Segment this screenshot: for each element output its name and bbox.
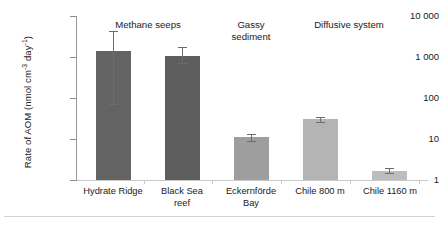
y-axis-title-mid: day: [22, 45, 33, 63]
group-annotation-line1: Gassy: [222, 19, 280, 31]
bar-black-sea-reef: [165, 56, 200, 180]
error-bar-cap-lower: [247, 141, 256, 142]
error-bar-black-sea-reef: [182, 47, 183, 64]
bar-eckernf-rde-bay: [234, 137, 269, 180]
group-annotation-line2: sediment: [222, 31, 280, 43]
y-tick-label-100: 100: [373, 93, 439, 103]
error-bar-cap-upper: [247, 134, 256, 135]
x-axis-label-eckernforde-bay: Eckernförde Bay: [220, 186, 282, 209]
error-bar-chile-800-m: [320, 117, 321, 122]
error-bar-cap-upper: [316, 117, 325, 118]
error-bar-stem: [113, 31, 114, 104]
error-bar-eckernf-rde-bay: [251, 134, 252, 141]
error-bar-cap-lower: [385, 173, 394, 174]
x-tick-mark-5: [419, 180, 420, 184]
y-tick-mark-10: [70, 139, 77, 140]
error-bar-chile-1160-m: [389, 168, 390, 174]
error-bar-cap-lower: [109, 104, 118, 105]
y-tick-label-1000: 1 000: [373, 52, 439, 62]
y-axis-title-sup1: -3: [21, 64, 28, 70]
bar-chile-800-m: [303, 119, 338, 180]
figure-bottom-rule: [4, 216, 435, 217]
x-axis-label-line2: Bay: [220, 198, 282, 210]
x-axis-label-line1: Hydrate Ridge: [83, 186, 143, 198]
group-annotation-gassy-sediment: Gassy sediment: [222, 19, 280, 42]
x-axis-label-line1: Black Sea: [152, 186, 212, 198]
x-axis-label-line1: Chile 800 m: [289, 186, 351, 198]
y-tick-mark-1: [70, 180, 77, 181]
x-tick-mark-1: [144, 180, 145, 184]
x-axis-label-line1: Chile 1160 m: [357, 186, 423, 198]
group-annotation-diffusive-system: Diffusive system: [295, 19, 403, 31]
y-tick-mark-10000: [70, 16, 77, 17]
y-axis-title-sup2: -1: [21, 39, 28, 45]
aom-rate-bar-chart: Rate of AOM (nmol cm-3 day-1) 10 000 1 0…: [0, 0, 439, 230]
error-bar-cap-upper: [109, 31, 118, 32]
group-annotation-methane-seeps: Methane seeps: [93, 19, 203, 31]
x-tick-mark-4: [350, 180, 351, 184]
error-bar-cap-lower: [178, 63, 187, 64]
y-axis-title-suffix: ): [22, 36, 33, 39]
y-tick-mark-1000: [70, 57, 77, 58]
group-annotation-line1: Diffusive system: [295, 19, 403, 31]
group-annotation-line1: Methane seeps: [93, 19, 203, 31]
x-axis-label-line2: reef: [152, 198, 212, 210]
y-axis-title-prefix: Rate of AOM (nmol cm: [22, 70, 33, 168]
x-tick-mark-3: [281, 180, 282, 184]
x-axis-label-line1: Eckernförde: [220, 186, 282, 198]
y-tick-mark-100: [70, 98, 77, 99]
error-bar-cap-upper: [385, 168, 394, 169]
error-bar-stem: [182, 47, 183, 64]
x-axis-label-black-sea-reef: Black Sea reef: [152, 186, 212, 209]
x-axis-label-chile-1160m: Chile 1160 m: [357, 186, 423, 198]
x-axis-label-hydrate-ridge: Hydrate Ridge: [83, 186, 143, 198]
y-tick-label-10: 10: [373, 134, 439, 144]
error-bar-hydrate-ridge: [113, 31, 114, 104]
error-bar-cap-lower: [316, 122, 325, 123]
x-tick-mark-2: [212, 180, 213, 184]
x-axis-label-chile-800m: Chile 800 m: [289, 186, 351, 198]
y-axis-title: Rate of AOM (nmol cm-3 day-1): [21, 17, 33, 187]
error-bar-cap-upper: [178, 47, 187, 48]
